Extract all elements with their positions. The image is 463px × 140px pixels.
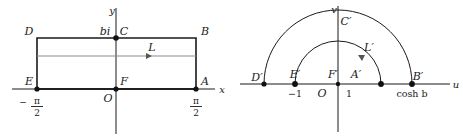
label-C: C [120,25,129,38]
point-F-prime [336,82,340,86]
label-A-prime: A′ [350,68,362,81]
tick-denominator-2: 2 [193,108,199,118]
label-bi: bi [100,25,111,38]
tick-label-cosh-b: cosh b [396,88,427,99]
label-x-axis: x [219,84,225,95]
label-E-prime: E′ [289,68,301,81]
tick-sign-minus: − [19,97,27,107]
tick-label-one: 1 [346,88,352,99]
label-y-axis: y [108,5,115,16]
point-F [113,86,118,91]
label-D: D [24,25,34,38]
label-B: B [200,25,209,38]
z-plane-panel: D B C bi E F A O L y x − π 2 π 2 [0,0,232,140]
conformal-mapping-figure: D B C bi E F A O L y x − π 2 π 2 [0,0,463,140]
label-C-prime: C′ [341,15,352,28]
label-D-prime: D′ [250,71,263,84]
tick-label-pi-over-2: π 2 [190,96,202,118]
label-curve-L-prime: L′ [363,41,374,54]
point-C [113,35,119,41]
point-E [34,86,39,91]
point-A-prime [378,81,384,87]
label-origin-O: O [103,92,112,105]
point-A [193,86,198,91]
tick-numerator-pi: π [193,96,199,106]
curve-L-prime-arrow-icon [358,55,365,61]
label-u-axis: u [453,79,459,90]
label-F-prime: F′ [327,68,339,81]
tick-denominator-2: 2 [34,108,40,118]
w-plane-panel: D′ E′ F′ A′ B′ C′ L′ −1 O 1 cosh b v u [232,0,463,140]
tick-label-minus-one: −1 [288,88,302,99]
label-F: F [119,75,128,88]
tick-label-minus-pi-over-2: − π 2 [19,96,43,118]
label-E: E [24,75,33,88]
point-E-prime [292,81,298,87]
tick-numerator-pi: π [34,96,40,106]
label-origin-O: O [317,87,326,100]
label-v-axis: v [331,4,337,15]
label-B-prime: B′ [412,70,424,83]
label-A: A [200,75,209,88]
label-curve-L: L [147,41,155,54]
